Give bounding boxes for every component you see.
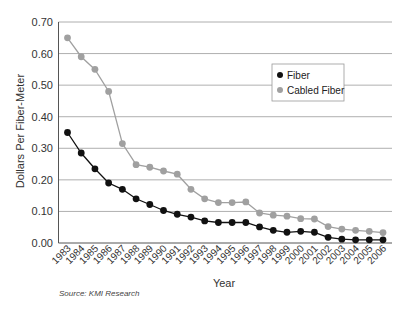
data-point-marker: [256, 210, 263, 217]
x-axis-title: Year: [213, 277, 236, 289]
x-axis-ticks: 1983198419851986198719881989199019911992…: [49, 242, 388, 266]
data-point-marker: [105, 180, 112, 187]
data-point-marker: [380, 229, 387, 236]
data-point-marker: [325, 234, 332, 241]
data-point-marker: [325, 223, 332, 230]
data-point-marker: [215, 219, 222, 226]
data-point-marker: [119, 140, 126, 147]
y-axis-title: Dollars Per Fiber-Meter: [14, 74, 26, 189]
data-point-marker: [92, 165, 99, 172]
data-point-marker: [78, 53, 85, 60]
y-tick-label: 0.10: [32, 205, 53, 217]
data-point-marker: [188, 186, 195, 193]
data-point-marker: [311, 216, 318, 223]
y-tick-label: 0.70: [32, 16, 53, 28]
data-point-marker: [352, 227, 359, 234]
data-point-marker: [160, 168, 167, 175]
data-point-marker: [188, 214, 195, 221]
data-point-marker: [352, 236, 359, 243]
data-point-marker: [64, 34, 71, 41]
data-point-marker: [297, 215, 304, 222]
data-point-marker: [215, 199, 222, 206]
data-point-marker: [380, 236, 387, 243]
data-point-marker: [297, 228, 304, 235]
y-tick-label: 0.50: [32, 79, 53, 91]
data-point-marker: [366, 236, 373, 243]
source-note: Source: KMI Research: [59, 289, 139, 298]
data-point-marker: [311, 229, 318, 236]
data-point-marker: [229, 219, 236, 226]
data-point-marker: [201, 195, 208, 202]
y-tick-label: 0.40: [32, 111, 53, 123]
data-point-marker: [270, 212, 277, 219]
data-point-marker: [174, 171, 181, 178]
data-point-marker: [201, 218, 208, 225]
data-point-marker: [105, 88, 112, 95]
legend-label-cabled-fiber: Cabled Fiber: [287, 85, 345, 96]
data-point-marker: [242, 219, 249, 226]
legend-marker-fiber: [277, 72, 283, 78]
data-point-marker: [119, 186, 126, 193]
data-point-marker: [64, 129, 71, 136]
y-tick-label: 0.30: [32, 142, 53, 154]
data-point-marker: [78, 150, 85, 157]
data-point-marker: [133, 195, 140, 202]
data-point-marker: [338, 236, 345, 243]
data-point-marker: [146, 164, 153, 171]
data-point-marker: [174, 211, 181, 218]
y-tick-label: 0.20: [32, 174, 53, 186]
data-point-marker: [338, 226, 345, 233]
y-tick-label: 0.60: [32, 48, 53, 60]
data-point-marker: [256, 223, 263, 230]
data-point-marker: [366, 228, 373, 235]
legend-label-fiber: Fiber: [287, 70, 310, 81]
line-chart: 0.000.100.200.300.400.500.600.70 1983198…: [0, 0, 407, 313]
data-point-marker: [284, 229, 291, 236]
data-point-marker: [270, 227, 277, 234]
y-tick-label: 0.00: [32, 237, 53, 249]
data-point-marker: [146, 201, 153, 208]
data-point-marker: [284, 213, 291, 220]
series-fiber: [64, 129, 386, 243]
data-point-marker: [160, 207, 167, 214]
data-point-marker: [133, 161, 140, 168]
data-point-marker: [229, 199, 236, 206]
data-point-marker: [92, 66, 99, 73]
legend-marker-cabled-fiber: [277, 87, 283, 93]
data-point-marker: [242, 199, 249, 206]
y-axis-ticks: 0.000.100.200.300.400.500.600.70: [32, 16, 53, 249]
legend: Fiber Cabled Fiber: [272, 64, 345, 101]
